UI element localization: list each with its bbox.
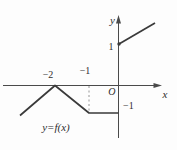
function-curve-right-ray [119,23,155,44]
tick-label-y-minus1: −1 [123,100,134,111]
tick-label-y-1: 1 [109,41,114,52]
tick-label-x-minus1: −1 [80,65,91,76]
function-graph-figure: y x O 1 −2 −1 −1 y=f(x) [0,0,177,150]
y-axis-arrowhead-icon [116,15,121,24]
jump-point-dot [117,42,120,45]
function-curve-left-branch [20,86,119,116]
origin-label: O [108,86,115,97]
graph-canvas: y x O 1 −2 −1 −1 y=f(x) [0,0,177,150]
function-equation-label: y=f(x) [41,121,70,134]
y-axis-label: y [109,14,115,26]
tick-label-x-minus2: −2 [43,69,54,80]
x-axis-arrowhead-icon [154,83,163,88]
x-axis-label: x [162,88,168,100]
